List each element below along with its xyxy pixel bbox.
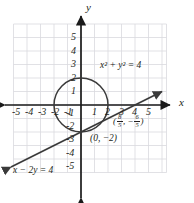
x-axis-label: x <box>179 96 184 108</box>
y-tick--5: -5 <box>66 160 74 171</box>
x-tick-5: 5 <box>146 106 151 117</box>
y-tick-5: 5 <box>71 31 76 42</box>
x-tick-2: 2 <box>105 106 110 117</box>
y-axis-label: y <box>86 1 91 13</box>
y-tick--1: -1 <box>66 107 74 118</box>
y-tick-1: 1 <box>71 85 76 96</box>
y-tick-2: 2 <box>71 72 76 83</box>
circle-equation-label: x² + y² = 4 <box>100 60 141 70</box>
intersection-point-label: (0, −2) <box>90 133 117 143</box>
y-tick--4: -4 <box>66 147 74 158</box>
x-tick--5: -5 <box>12 106 20 117</box>
x-tick-1: 1 <box>92 106 97 117</box>
numerator-8: 8 <box>118 114 121 121</box>
numerator-6: 6 <box>135 114 138 121</box>
y-tick-3: 3 <box>71 58 76 69</box>
y-tick--3: -3 <box>66 133 74 144</box>
line-curve <box>11 92 162 168</box>
y-tick--2: -2 <box>66 120 74 131</box>
x-tick--4: -4 <box>25 106 33 117</box>
grid-lines <box>14 24 167 173</box>
graph-figure: x y -5 -4 -3 -2 -1 1 2 3 4 5 1 2 3 4 5 -… <box>0 0 194 203</box>
paren-close: ) <box>141 117 144 126</box>
denominator-5b: 5 <box>135 122 138 129</box>
comma-minus: , − <box>123 117 134 126</box>
intersection-fraction-label: ( 8 5 , − 6 5 ) <box>113 114 144 129</box>
x-tick--3: -3 <box>38 106 46 117</box>
x-tick--2: -2 <box>51 106 59 117</box>
fraction-six-fifths: 6 5 <box>134 114 140 129</box>
y-tick-4: 4 <box>71 45 76 56</box>
line-equation-label: x − 2y = 4 <box>13 165 53 175</box>
fraction-eight-fifths: 8 5 <box>117 114 123 129</box>
denominator-5: 5 <box>118 122 121 129</box>
